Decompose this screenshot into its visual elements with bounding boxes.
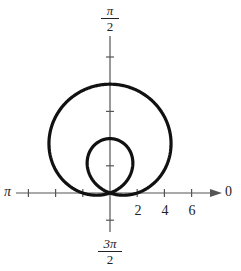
- radial-tick-label-2: 2: [135, 204, 142, 218]
- polar-plot: [0, 0, 241, 271]
- radial-tick-label-4: 4: [162, 204, 169, 218]
- angle-label-pi-over-2: π 2: [101, 4, 119, 33]
- radial-tick-label-6: 6: [189, 204, 196, 218]
- angle-label-zero: 0: [225, 185, 232, 199]
- arrow-right-icon: [210, 189, 222, 197]
- angle-label-3pi-over-2: 3π 2: [98, 237, 122, 266]
- angle-label-pi: π: [4, 185, 11, 199]
